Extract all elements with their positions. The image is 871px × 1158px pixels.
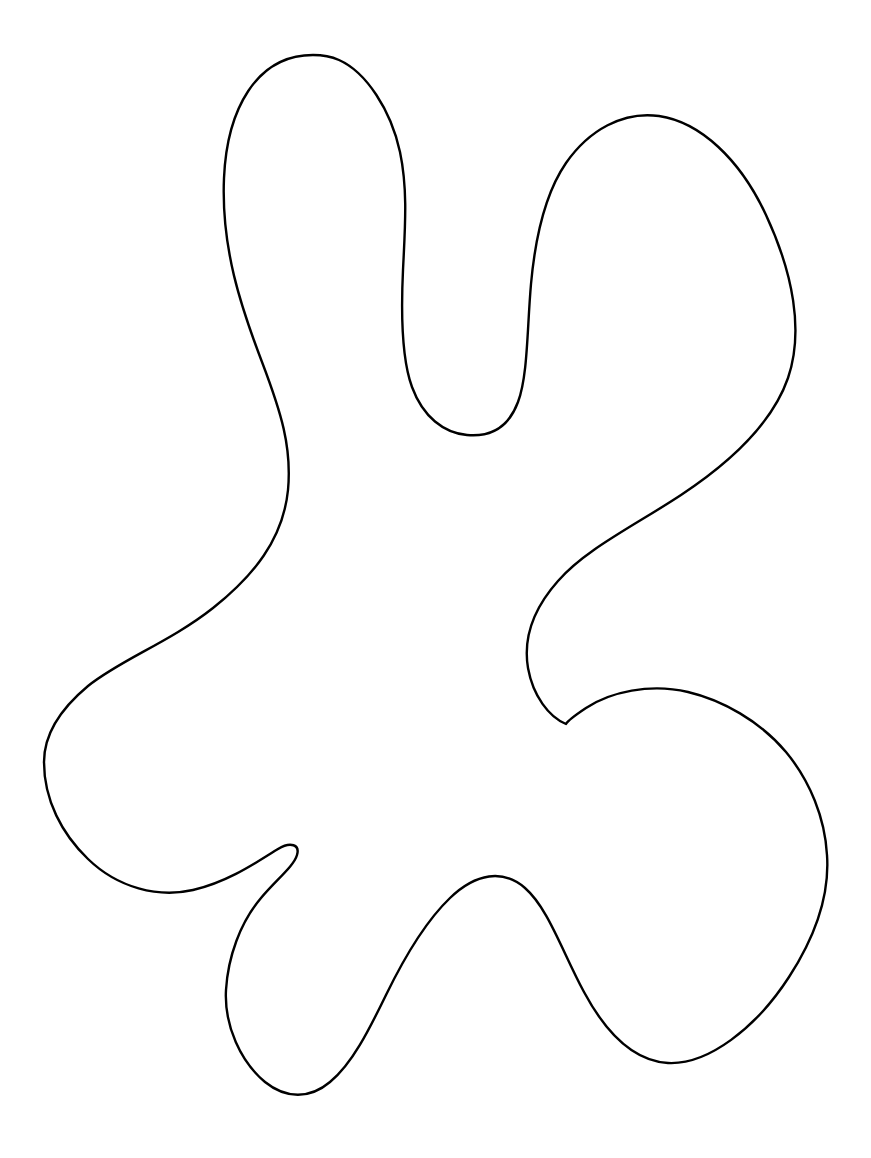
blob-outline-svg xyxy=(0,0,871,1158)
drawing-canvas xyxy=(0,0,871,1158)
